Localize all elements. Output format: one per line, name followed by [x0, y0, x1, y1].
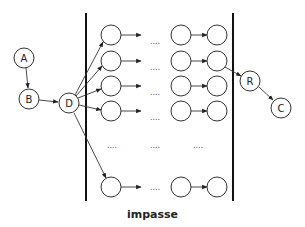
edge-d-row0	[75, 42, 103, 95]
chain-row-0: ....	[101, 25, 227, 46]
chain-row-2: ....	[101, 76, 227, 97]
ellipsis: ....	[150, 88, 160, 97]
svg-text:....: ....	[107, 141, 117, 150]
edge-r-c	[259, 87, 273, 100]
edge-b-d	[39, 100, 58, 102]
chain-row-4: ....	[101, 177, 227, 197]
chain-row-1: ....	[101, 51, 227, 72]
node-r: R	[240, 71, 260, 91]
diagram-caption: impasse	[0, 208, 305, 221]
svg-text:R: R	[247, 76, 254, 87]
svg-text:D: D	[65, 98, 73, 109]
edge-d-row4	[74, 113, 106, 178]
node-a: A	[14, 48, 34, 68]
svg-text:....: ....	[150, 141, 160, 150]
ellipsis: ....	[150, 37, 160, 46]
svg-text:C: C	[278, 103, 285, 114]
node-b: B	[19, 89, 39, 109]
edge-d-row3	[79, 105, 101, 110]
ellipsis: ....	[150, 113, 160, 122]
node-c: C	[271, 98, 291, 118]
svg-text:....: ....	[193, 141, 203, 150]
impasse-diagram: .... .... .... .... .... .... .... ..	[0, 0, 305, 227]
edge-a-b	[26, 68, 28, 88]
svg-text:B: B	[26, 94, 33, 105]
chain-row-3: ....	[101, 101, 227, 122]
node-d: D	[59, 93, 79, 113]
svg-text:A: A	[21, 53, 28, 64]
edge-d-row1	[76, 66, 102, 96]
ellipsis: ....	[150, 183, 160, 192]
ellipsis: ....	[150, 63, 160, 72]
ellipsis-row: .... .... ....	[107, 141, 203, 150]
